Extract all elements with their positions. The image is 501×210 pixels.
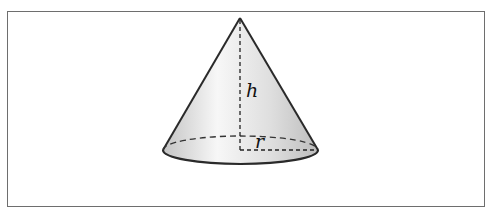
- cone-diagram: h r: [0, 0, 501, 210]
- height-label: h: [246, 79, 258, 101]
